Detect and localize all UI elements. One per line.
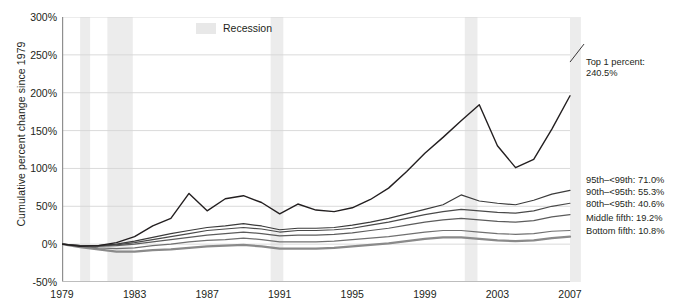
recession-band (570, 17, 581, 282)
recession-band (80, 17, 90, 282)
series-annotation: Top 1 percent: (586, 57, 645, 69)
x-tick-label: 1983 (123, 288, 146, 300)
recession-legend-label: Recession (223, 22, 272, 34)
x-tick-label: 2007 (558, 288, 581, 300)
x-tick-label: 1999 (413, 288, 436, 300)
series-line (62, 96, 570, 247)
plot-area (62, 17, 570, 282)
recession-band (465, 17, 478, 282)
series-annotation: 80th–<95th: 40.6% (586, 199, 664, 211)
chart-root: Cumulative percent change since 1979 300… (0, 0, 679, 306)
x-tick-label: 1991 (268, 288, 291, 300)
recession-legend-swatch (196, 23, 216, 34)
series-line (62, 190, 570, 245)
series-annotation: 240.5% (586, 68, 618, 80)
series-annotation: 95th–<99th: 71.0% (586, 175, 664, 187)
legend: Recession (196, 22, 272, 34)
chart-svg (62, 17, 590, 284)
series-annotation: Middle fifth: 19.2% (586, 213, 662, 225)
x-tick-label: 1987 (195, 288, 218, 300)
x-tick-label: 2003 (486, 288, 509, 300)
series-annotation: Bottom fifth: 10.8% (586, 226, 665, 238)
series-annotation: 90th–<95th: 55.3% (586, 187, 664, 199)
x-tick-label: 1979 (50, 288, 73, 300)
x-tick-label: 1995 (341, 288, 364, 300)
